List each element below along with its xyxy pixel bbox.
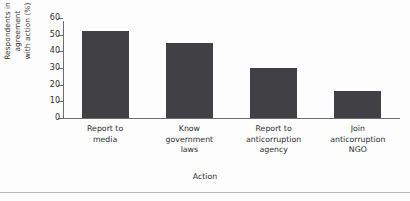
x-axis-category-label: Report to anticorruption agency <box>232 124 316 156</box>
x-axis-category-label: Join anticorruption NGO <box>316 124 400 156</box>
y-axis-tick-label: 10 <box>50 96 60 105</box>
y-axis-title-line-2: agreement <box>13 2 23 60</box>
y-axis-title-line-1: Respondents in <box>3 2 13 60</box>
y-axis-tick-label: 0 <box>55 113 60 122</box>
y-axis-line <box>63 21 64 119</box>
bottom-divider <box>0 192 410 193</box>
y-axis-tick-label: 30 <box>50 63 60 72</box>
bar <box>334 91 381 118</box>
x-axis-title: Action <box>0 172 410 181</box>
bar-chart-figure: Respondents in agreement with action (%)… <box>0 0 410 201</box>
y-axis-tick-label: 20 <box>50 80 60 89</box>
x-axis-line <box>63 118 400 119</box>
y-axis-tick-label: 50 <box>50 30 60 39</box>
y-axis-title-line-3: with action (%) <box>23 2 33 60</box>
plot-area: 0102030405060 Report to mediaKnow govern… <box>63 18 400 118</box>
y-axis-tick-label: 40 <box>50 46 60 55</box>
bar <box>250 68 297 118</box>
y-axis-tick-label: 60 <box>50 13 60 22</box>
x-axis-category-label: Know government laws <box>147 124 231 156</box>
y-axis-title: Respondents in agreement with action (%) <box>1 0 35 85</box>
bar <box>82 31 129 118</box>
bar <box>166 43 213 118</box>
x-axis-category-label: Report to media <box>63 124 147 145</box>
